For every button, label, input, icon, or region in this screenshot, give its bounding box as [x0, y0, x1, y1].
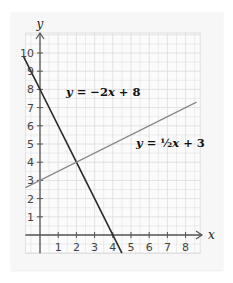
- y-tick-label: 8: [27, 83, 34, 96]
- y-tick-label: 7: [27, 102, 34, 115]
- eq1-x: x: [107, 85, 115, 99]
- y-tick-label: 2: [27, 193, 34, 206]
- equation-label-line2: y = ½x + 3: [135, 136, 205, 150]
- y-axis-label: y: [36, 17, 44, 31]
- eq1-tail: + 8: [115, 85, 141, 99]
- x-tick-label: 7: [164, 241, 171, 254]
- line-chart: 1234567812345678910 y x y = −2x + 8 y = …: [0, 0, 233, 283]
- y-tick-label: 10: [20, 47, 34, 60]
- x-tick-label: 4: [109, 241, 116, 254]
- eq2-x: x: [171, 136, 179, 150]
- y-tick-label: 6: [27, 120, 34, 133]
- y-tick-label: 9: [27, 65, 34, 78]
- eq2-mid: = ½: [143, 136, 173, 150]
- y-tick-label: 5: [27, 138, 34, 151]
- x-tick-label: 8: [182, 241, 189, 254]
- y-tick-label: 3: [27, 174, 34, 187]
- y-tick-label: 4: [27, 156, 34, 169]
- equation-label-line1: y = −2x + 8: [65, 85, 140, 99]
- x-tick-label: 5: [128, 241, 135, 254]
- eq1-mid: = −2: [73, 85, 108, 99]
- x-tick-label: 2: [73, 241, 80, 254]
- y-tick-label: 1: [27, 211, 34, 224]
- eq2-tail: + 3: [179, 136, 205, 150]
- x-tick-label: 6: [146, 241, 153, 254]
- x-tick-label: 3: [91, 241, 98, 254]
- x-tick-label: 1: [55, 241, 62, 254]
- x-axis-label: x: [208, 228, 215, 242]
